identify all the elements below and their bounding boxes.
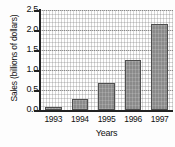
x-tick-label: 1993 [40,114,67,124]
y-tick-mark [34,110,40,112]
x-axis-tick-labels: 19931994199519961997 [40,114,173,126]
bar [45,107,61,110]
x-tick-label: 1995 [93,114,120,124]
bar-series [40,10,173,110]
y-axis-tick-labels: 0.00.51.01.52.02.5 [12,0,38,147]
x-tick-label: 1994 [67,114,94,124]
y-tick-mark [34,10,40,12]
x-tick-label: 1997 [146,114,173,124]
bar-chart: Sales (billions of dollars) 0.00.51.01.5… [0,0,175,147]
bar [72,99,88,110]
x-axis-line [39,110,173,112]
bar [98,83,114,110]
y-tick-mark [34,30,40,32]
y-tick-mark [34,50,40,52]
x-tick-label: 1996 [120,114,147,124]
y-tick-mark [34,70,40,72]
x-axis-label: Years [40,128,173,138]
y-tick-mark [34,90,40,92]
bar [125,60,141,110]
bar [151,24,167,110]
